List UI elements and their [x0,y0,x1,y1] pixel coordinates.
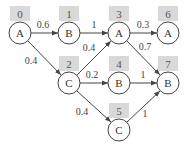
node-4: 4 B [108,56,130,94]
weight-2-4: 0.2 [86,69,99,80]
node-label: A [164,27,172,39]
weight-2-5: 0.4 [76,106,89,117]
node-id: 7 [165,58,171,70]
weight-0-1: 0.6 [37,19,50,30]
graph-canvas: 0.6 0.4 1 0.4 0.2 0.4 0.3 0.7 1 1 0 A 1 … [0,0,191,149]
node-3: 3 A [108,6,130,44]
node-label: B [164,77,171,89]
node-id: 3 [116,8,122,20]
weight-3-7: 0.7 [139,41,152,52]
node-label: A [16,27,24,39]
node-label: A [115,27,123,39]
edge-weights: 0.6 0.4 1 0.4 0.2 0.4 0.3 0.7 1 1 [25,19,152,119]
node-id: 4 [116,58,122,70]
node-id: 1 [66,8,72,20]
node-id: 2 [66,58,72,70]
node-id: 5 [116,105,122,117]
weight-3-6: 0.3 [137,19,150,30]
weight-4-7: 1 [141,69,146,80]
node-1: 1 B [58,6,80,44]
weight-0-2: 0.4 [25,55,38,66]
node-5: 5 C [108,103,130,141]
node-label: C [65,77,72,89]
node-6: 6 A [157,6,179,44]
node-id: 6 [165,8,171,20]
node-0: 0 A [9,6,31,44]
node-2: 2 C [58,56,80,94]
node-id: 0 [17,8,23,20]
weight-2-3: 0.4 [83,42,96,53]
node-label: B [65,27,72,39]
node-label: B [115,77,122,89]
weight-1-3: 1 [92,19,97,30]
node-7: 7 B [157,56,179,94]
node-label: C [115,124,122,136]
weight-5-7: 1 [143,108,148,119]
